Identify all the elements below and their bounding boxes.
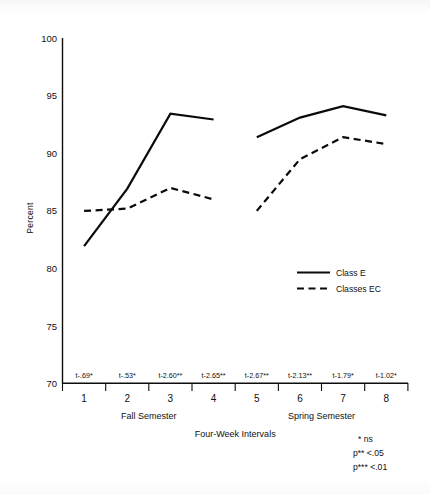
x-tick-label-8: 8 [384,393,390,404]
y-axis-title: Percent [25,202,35,234]
x-tick-label-5: 5 [254,393,260,404]
t-value-annotation-1: t-.69* [76,371,93,380]
footnote-p01: p*** <.01 [353,462,387,472]
x-tick-label-7: 7 [340,393,346,404]
t-value-annotation-5: t-2.67** [245,371,269,380]
x-axis-title: Four-Week Intervals [195,429,276,439]
y-tick-label-75: 75 [46,321,57,332]
y-tick-label-70: 70 [46,378,57,389]
t-value-annotation-4: t-2.65** [202,371,226,380]
y-tick-label-100: 100 [41,33,57,44]
y-tick-label-85: 85 [46,205,57,216]
x-tick-label-4: 4 [211,393,217,404]
t-value-annotation-2: t-.53* [119,371,136,380]
x-tick-label-1: 1 [81,393,87,404]
line-chart: 100 95 90 85 80 75 70 Percent t-.69* t-.… [0,0,430,494]
t-value-annotation-6: t-2.13** [288,371,312,380]
group-label-spring-semester: Spring Semester [288,411,355,421]
t-value-annotation-7: t-1.79* [333,371,354,380]
footnote-p05: p** <.05 [353,448,384,458]
x-tick-label-2: 2 [125,393,131,404]
y-tick-label-80: 80 [46,263,57,274]
x-tick-label-6: 6 [297,393,303,404]
t-value-annotation-8: t-1.02* [376,371,397,380]
group-label-fall-semester: Fall Semester [121,411,177,421]
x-tick-label-3: 3 [168,393,174,404]
legend-label-class-e: Class E [336,268,366,278]
y-tick-label-95: 95 [46,90,57,101]
footnote-ns: * ns [358,434,373,444]
legend-label-classes-ec: Classes EC [336,284,381,294]
chart-background [0,0,430,494]
chart-figure: 100 95 90 85 80 75 70 Percent t-.69* t-.… [0,0,430,494]
t-value-annotation-3: t-2.60** [158,371,182,380]
y-tick-label-90: 90 [46,148,57,159]
